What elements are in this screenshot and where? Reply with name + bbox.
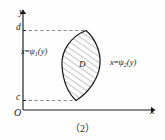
figure-canvas — [0, 0, 165, 140]
right-boundary-arg: (y) — [127, 57, 136, 67]
figure-caption: （2） — [0, 120, 165, 135]
left-boundary-label: x=ψ1(y) — [21, 47, 47, 56]
tick-label-d: d — [16, 23, 21, 33]
left-boundary-arg: (y) — [38, 46, 47, 56]
tick-label-c: c — [16, 93, 20, 103]
x-axis-label: x — [150, 106, 154, 116]
right-boundary-label: x=ψ2(y) — [110, 58, 136, 67]
region-label-d: D — [79, 60, 86, 69]
right-boundary-subscript: 2 — [124, 62, 127, 68]
origin-label: O — [14, 108, 21, 118]
y-axis-label: y — [19, 7, 23, 17]
figure-container: y x O d c D x=ψ1(y) x=ψ2(y) （2） — [0, 0, 165, 140]
left-boundary-subscript: 1 — [35, 51, 38, 57]
